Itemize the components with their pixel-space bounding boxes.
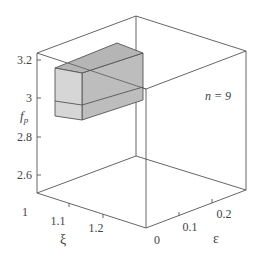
frame-bottom-back-left: [37, 156, 136, 193]
y-tick-0.1: 0.1: [183, 220, 198, 234]
z-tick-3: 3: [26, 91, 32, 105]
x-axis-label: ξ: [60, 232, 66, 247]
3d-box-plot: 3.2 3 2.8 2.6 fp 1 1.1 1.2 ξ 0 0.1 0.2 ε…: [0, 0, 265, 256]
y-tick-0: 0: [154, 233, 160, 247]
frame-top-back-right: [136, 16, 246, 51]
box-front-face: [55, 68, 82, 120]
chart-container: 3.2 3 2.8 2.6 fp 1 1.1 1.2 ξ 0 0.1 0.2 ε…: [0, 0, 265, 256]
x-tick-1.2: 1.2: [89, 221, 104, 235]
x-axis-ticks: 1 1.1 1.2: [22, 203, 104, 235]
x-tick-1.1: 1.1: [51, 214, 66, 228]
annotation-n: n = 9: [205, 89, 231, 103]
z-tick-2.6: 2.6: [17, 168, 32, 182]
y-axis-label: ε: [213, 231, 219, 246]
z-tick-2.8: 2.8: [17, 130, 32, 144]
frame-top-front-right: [146, 51, 246, 89]
data-box: [55, 43, 146, 120]
y-tick-0.2: 0.2: [217, 207, 232, 221]
x-tick-1: 1: [22, 205, 28, 219]
frame-bottom-back-right: [136, 156, 246, 190]
y-axis-ticks: 0 0.1 0.2: [154, 199, 232, 247]
z-axis-label: fp: [20, 108, 29, 125]
z-tick-3.2: 3.2: [17, 53, 32, 67]
